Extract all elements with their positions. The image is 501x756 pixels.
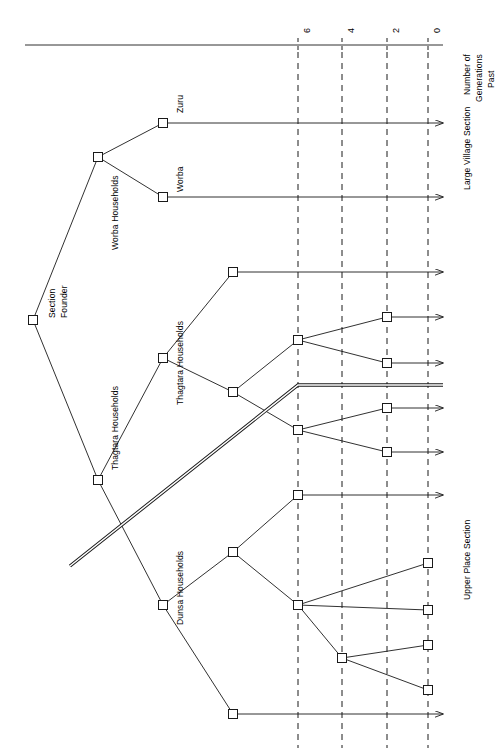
- label-thagtara-households-1: Thagtara Households: [110, 386, 120, 470]
- edge-dunsa-lower-to-g0d: [342, 658, 428, 690]
- node-worba: [159, 193, 168, 202]
- label-section-founder-line1: Section: [47, 289, 57, 318]
- node-thagtara-gen6-upper: [294, 336, 303, 345]
- label-thagtara-households-2: Thagtara Households: [175, 321, 185, 405]
- label-dunsa-households: Dunsa Households: [175, 551, 185, 625]
- axis-title-line3: Past: [486, 70, 496, 88]
- label-zuru: Zuru: [175, 95, 185, 113]
- node-thagtara-gen6-lower: [294, 426, 303, 435]
- label-large-village-section: Large Village Section: [462, 107, 472, 190]
- axis-title-line2: Generations: [474, 54, 484, 102]
- continuation-arrows: [163, 123, 443, 714]
- node-thagtara-households: [94, 476, 103, 485]
- node-thagtara-mid: [229, 388, 238, 397]
- label-section-founder-line2: Founder: [59, 285, 69, 318]
- node-dunsa-bottom: [229, 710, 238, 719]
- edge-thag-branch-to-top: [163, 272, 233, 358]
- node-gen0-c: [424, 641, 433, 650]
- node-thagtara-gen2-a: [383, 313, 392, 322]
- edge-thagtara-hh-to-branch: [98, 358, 163, 480]
- node-thagtara-gen2-d: [383, 448, 392, 457]
- node-dunsa-mid: [294, 601, 303, 610]
- node-worba-households: [94, 153, 103, 162]
- edge-dunsa-mid-to-g0a: [298, 563, 428, 605]
- edge-dunsa-mid-to-lower: [298, 605, 342, 658]
- node-dunsa-households: [159, 601, 168, 610]
- label-worba: Worba: [175, 166, 185, 192]
- axis-tick-label-4: 4: [346, 28, 356, 33]
- axis-title-line1: Number of: [462, 54, 472, 95]
- label-upper-place-section: Upper Place Section: [462, 520, 472, 600]
- axis-tick-label-6: 6: [302, 28, 312, 33]
- edge-founder-to-thagtara-hh: [33, 320, 98, 480]
- node-thagtara-branch: [159, 354, 168, 363]
- node-thagtara-top: [229, 268, 238, 277]
- node-dunsa-lower: [338, 654, 347, 663]
- node-gen0-b: [424, 606, 433, 615]
- node-thagtara-gen2-b: [383, 359, 392, 368]
- household-nodes: [29, 119, 433, 719]
- generation-gridlines: [298, 52, 428, 748]
- node-gen0-d: [424, 686, 433, 695]
- descent-edges: [33, 123, 428, 714]
- node-dunsa-top: [294, 491, 303, 500]
- edge-worba-hh-to-worba: [98, 157, 163, 197]
- diagram-canvas: [0, 0, 501, 756]
- axis-tick-label-0: 0: [432, 28, 442, 33]
- edge-dunsa-hh-to-bottom: [163, 605, 233, 714]
- node-dunsa-branch: [229, 548, 238, 557]
- edge-dunsa-mid-to-g0b: [298, 605, 428, 610]
- axis-tick-label-2: 2: [391, 28, 401, 33]
- edge-dunsa-branch-to-mid: [233, 552, 298, 605]
- edge-dunsa-hh-to-branch: [163, 552, 233, 605]
- node-gen0-a: [424, 559, 433, 568]
- edge-thag-branch-to-mid: [163, 358, 233, 392]
- edge-dunsa-lower-to-g0c: [342, 645, 428, 658]
- edge-thag-mid-to-gen6-upper: [233, 340, 298, 392]
- node-section-founder: [29, 316, 38, 325]
- genealogy-diagram: SectionFounderWorba HouseholdsZuruWorbaT…: [0, 0, 501, 756]
- node-thagtara-gen2-c: [383, 404, 392, 413]
- node-zuru: [159, 119, 168, 128]
- label-worba-households: Worba Households: [110, 175, 120, 250]
- edge-worba-hh-to-zuru: [98, 123, 163, 157]
- edge-dunsa-branch-to-top: [233, 495, 298, 552]
